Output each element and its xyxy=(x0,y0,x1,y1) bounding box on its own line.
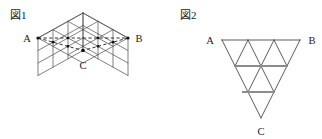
triangle-grid-left-diagonal xyxy=(261,40,300,118)
figure-2-caption: 図2 xyxy=(180,9,197,21)
triangle-grid-left-diagonal xyxy=(235,40,248,66)
figure-2-vertex-label-a: A xyxy=(206,35,214,46)
triangle-grid xyxy=(222,40,300,118)
triangle-highlight-segments xyxy=(235,66,287,92)
figure-2-diagram: 図2 A B C xyxy=(0,0,322,139)
figure-canvas: 図1 A B C 図2 A B C xyxy=(0,0,322,139)
figure-2-vertex-label-b: B xyxy=(308,35,315,46)
triangle-grid-right-diagonal xyxy=(222,40,261,118)
triangle-grid-right-diagonal xyxy=(274,40,287,66)
figure-2-vertex-label-c: C xyxy=(257,126,264,137)
